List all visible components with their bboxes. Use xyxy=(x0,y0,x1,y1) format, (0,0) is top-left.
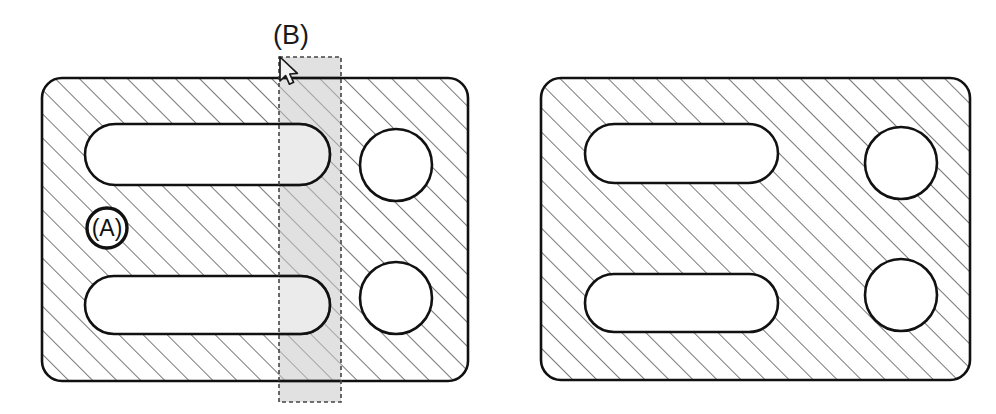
callout-a[interactable]: (A) xyxy=(87,208,127,248)
drawing-canvas: (A) (B) xyxy=(0,0,996,414)
callout-a-label: (A) xyxy=(92,215,123,241)
right-lower-slot xyxy=(585,274,778,332)
right-upper-slot xyxy=(585,124,778,183)
technical-drawing: (A) (B) xyxy=(0,0,996,414)
selection-band-fill xyxy=(279,57,341,402)
left-upper-hole xyxy=(360,129,432,201)
right-lower-hole xyxy=(865,259,937,331)
section-label-b: (B) xyxy=(273,20,309,50)
right-upper-hole xyxy=(865,127,937,199)
right-plate-section xyxy=(529,66,989,396)
left-lower-hole xyxy=(360,262,432,334)
right-plate-hatch-fill xyxy=(529,66,989,396)
left-plate-section: (A) xyxy=(30,57,490,402)
